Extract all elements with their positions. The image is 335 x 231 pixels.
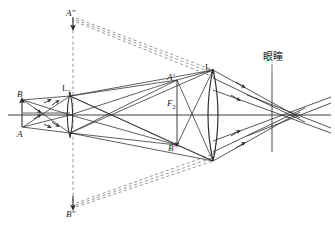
ray-cross-right-1 (247, 95, 331, 128)
label-lens-L1: L1 (62, 84, 71, 95)
label-object-B: B (17, 90, 23, 99)
label-image-A-prime: A′ (167, 73, 174, 82)
arrow-ray-left-2 (34, 115, 40, 119)
dashed-ray-a2 (76, 20, 215, 74)
dashed-construction-group (73, 18, 216, 207)
arrow-ray-right-4 (236, 143, 244, 148)
rays-L1-to-L2 (70, 70, 213, 161)
label-object-A: A (17, 130, 23, 139)
label-lens-L2: L2 (205, 63, 214, 74)
arrow-ray-right-2 (231, 95, 239, 100)
label-focal-point-F2: F2 (167, 99, 176, 110)
ray-L1bot-to-L2bot (70, 133, 213, 161)
arrow-ray-right-1 (236, 82, 244, 87)
arrow-ray-left-4 (44, 124, 50, 127)
dashed-ray-b1 (76, 161, 213, 207)
label-B-double-prime: B″ (66, 210, 75, 219)
label-image-B-prime: B′ (168, 144, 175, 153)
optical-diagram-figure: A″ B″ B A L1 L2 A′ B′ F2 眼瞳 (0, 0, 335, 231)
label-eye-pupil: 眼瞳 (263, 52, 283, 62)
dashed-ray-b2 (76, 157, 215, 205)
object-edge-top (22, 96, 70, 100)
optics-ray-svg (0, 0, 335, 231)
dashed-ray-a1 (76, 18, 213, 70)
ray-L1center-to-Bprime (70, 115, 177, 145)
dashed-ray-b3 (76, 153, 216, 203)
ray-A-to-L1-upper (23, 96, 70, 127)
ray-L1top-to-L2bot (70, 96, 213, 161)
dashed-ray-a3 (76, 22, 216, 78)
label-A-double-prime: A″ (66, 9, 75, 18)
arrow-ray-left-3 (44, 100, 50, 103)
ray-L1bot-to-L2top (70, 70, 213, 133)
ray-L1top-to-L2top (70, 70, 213, 96)
arrow-ray-left-1 (34, 108, 40, 112)
ray-cross-right-2 (247, 103, 331, 136)
